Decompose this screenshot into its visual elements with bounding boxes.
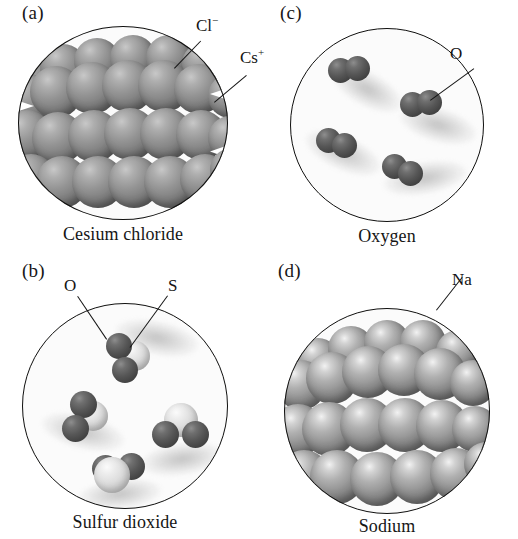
figure-root: (a) [0,0,518,539]
panel-tag-c: (c) [280,2,302,24]
oxygen-molecule-label: O [450,44,462,64]
panel-tag-a: (a) [22,2,44,24]
chloride-symbol: Cl [196,16,212,35]
chloride-ion-label: Cl− [196,14,218,36]
oxygen-symbol: O [64,276,76,295]
cesium-symbol: Cs [240,48,258,67]
sodium-symbol: Na [452,270,472,289]
panel-tag-b: (b) [22,260,45,282]
sulfur-dioxide-disc [22,303,228,509]
caption-sodium: Sodium [284,516,490,537]
caption-oxygen: Oxygen [288,226,486,247]
sulfur-symbol: S [168,276,177,295]
oxygen-symbol: O [450,44,462,63]
panel-sodium: (d) [258,258,518,539]
panel-cesium-chloride: (a) [0,0,258,255]
sodium-disc [284,308,490,514]
sodium-atom-label: Na [452,270,472,290]
panel-tag-d: (d) [278,260,301,282]
caption-cesium-chloride: Cesium chloride [0,224,246,245]
chloride-charge: − [212,14,218,26]
caption-sulfur-dioxide: Sulfur dioxide [18,512,232,533]
cesium-chloride-disc [18,26,228,220]
panel-sulfur-dioxide: (b) [0,258,258,539]
oxygen-atom-label: O [64,276,76,296]
panel-oxygen: (c) [258,0,518,255]
sulfur-atom-label: S [168,276,177,296]
